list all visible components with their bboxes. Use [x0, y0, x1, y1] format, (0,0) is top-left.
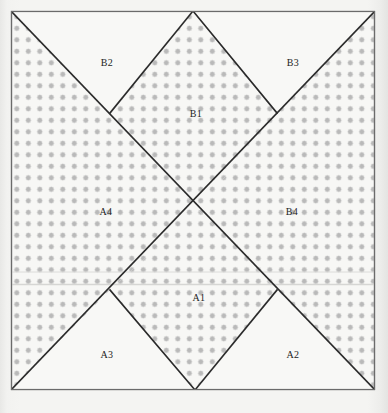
region-label-B1: B1 — [190, 108, 202, 119]
region-label-A2: A2 — [287, 349, 300, 360]
region-label-A3: A3 — [101, 349, 114, 360]
region-label-B3: B3 — [287, 57, 299, 68]
region-label-B4: B4 — [286, 206, 298, 217]
partitioned-square-diagram — [0, 0, 388, 413]
region-label-A4: A4 — [100, 206, 113, 217]
region-label-A1: A1 — [193, 292, 206, 303]
figure-root: B2 B3 B1 A4 B4 A1 A3 A2 — [0, 0, 388, 413]
region-label-B2: B2 — [101, 57, 113, 68]
